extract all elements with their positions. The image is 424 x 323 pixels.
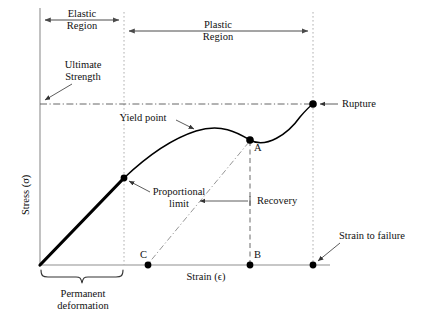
- proportional-limit-label: Proportional limit: [143, 186, 215, 209]
- marker-point-a[interactable]: [246, 136, 254, 144]
- plastic-region-line1: Plastic: [204, 19, 232, 30]
- brace-path: [41, 270, 123, 283]
- yield-point-label: Yield point: [112, 112, 174, 124]
- elastic-region-line2: Region: [67, 20, 97, 31]
- point-b-label: B: [254, 249, 266, 261]
- x-axis-label: Strain (ϵ): [166, 271, 246, 283]
- marker-point-b[interactable]: [247, 262, 254, 269]
- strain-to-failure-label: Strain to failure: [339, 230, 424, 242]
- ultimate-strength-label: Ultimate Strength: [50, 59, 116, 82]
- rupture-label: Rupture: [342, 98, 398, 110]
- stress-strain-figure: Elastic Region Plastic Region Ultimate S…: [0, 0, 424, 323]
- permanent-deformation-line2: deformation: [57, 300, 108, 311]
- ultimate-strength-line1: Ultimate: [65, 59, 102, 70]
- point-c-label: C: [140, 249, 152, 261]
- elastic-region-label: Elastic Region: [52, 8, 112, 31]
- marker-rupture[interactable]: [309, 100, 317, 108]
- y-axis-label: Stress (σ): [20, 175, 31, 215]
- yield-point-leader: [176, 120, 194, 129]
- strain-to-failure-leader: [318, 243, 340, 261]
- recovery-label: Recovery: [257, 195, 317, 207]
- plastic-region-label: Plastic Region: [188, 19, 248, 42]
- plastic-region-line2: Region: [203, 31, 233, 42]
- leader-lines: [45, 84, 340, 261]
- data-point-markers: [121, 100, 317, 268]
- ultimate-strength-leader: [45, 84, 72, 100]
- marker-point-c[interactable]: [145, 262, 152, 269]
- ultimate-strength-line2: Strength: [65, 71, 101, 82]
- elastic-region-line1: Elastic: [68, 8, 97, 19]
- stress-strain-curve: [40, 104, 313, 265]
- point-a-label: A: [254, 142, 266, 154]
- marker-strain-to-failure[interactable]: [310, 262, 317, 269]
- permanent-deformation-line1: Permanent: [61, 288, 106, 299]
- proportional-limit-line2: limit: [169, 198, 189, 209]
- permanent-deformation-label: Permanent deformation: [44, 288, 122, 311]
- marker-proportional-limit[interactable]: [121, 175, 128, 182]
- proportional-limit-line1: Proportional: [153, 186, 206, 197]
- elastic-linear-segment: [40, 178, 124, 265]
- permanent-deformation-brace: [41, 270, 123, 283]
- axes: [40, 8, 330, 265]
